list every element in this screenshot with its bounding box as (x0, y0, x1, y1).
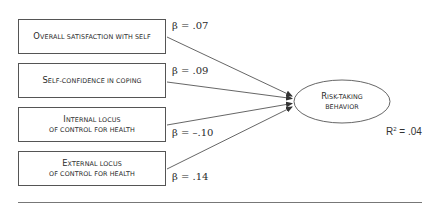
path-arrow-3 (167, 104, 292, 126)
label-text: nternal locus (66, 116, 121, 124)
beta-coefficient-1: β = .07 (172, 20, 208, 31)
beta-coefficient-2: β = .09 (172, 65, 208, 76)
beta-coefficient-4: β = .14 (172, 171, 208, 182)
predictor-label-line1: External locus (62, 158, 122, 169)
path-arrow-2 (167, 82, 292, 99)
label-text: elf-confidence in coping (48, 77, 142, 85)
r-value: = .04 (397, 126, 422, 137)
outcome-label-line2: behavior (325, 102, 359, 112)
predictor-box-self-confidence: Self-confidence in coping (18, 63, 166, 98)
predictor-label-line1: Internal locus (63, 114, 120, 125)
predictor-box-external-locus: External locus of control for health (18, 151, 166, 186)
predictor-label: Overall satisfaction with self (33, 31, 150, 42)
label-text: isk-taking (327, 93, 363, 101)
outcome-label-line1: Risk-taking (321, 91, 363, 102)
beta-coefficient-3: β = –.10 (172, 127, 213, 138)
predictor-box-overall-satisfaction: Overall satisfaction with self (18, 19, 166, 54)
label-text: verall satisfaction with self (40, 33, 151, 41)
bottom-rule (18, 202, 422, 203)
predictor-label: Self-confidence in coping (42, 75, 141, 86)
predictor-label-line2: of control for health (49, 169, 135, 179)
r-squared-value: R2 = .04 (386, 126, 422, 137)
label-text: xternal locus (68, 160, 122, 168)
predictor-box-internal-locus: Internal locus of control for health (18, 107, 166, 142)
outcome-label: Risk-taking behavior (294, 80, 390, 123)
path-arrow-4 (167, 107, 292, 169)
predictor-label-line2: of control for health (49, 125, 135, 135)
